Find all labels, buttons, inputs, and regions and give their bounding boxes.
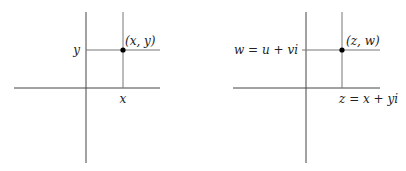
- point-marker: [339, 47, 344, 52]
- diagram-right: w = u + vi (z, w) z = x + yi: [233, 12, 398, 163]
- point-marker: [120, 47, 125, 52]
- y-label: y: [72, 43, 80, 57]
- point-label: (x, y): [125, 34, 156, 48]
- x-label: x: [120, 92, 127, 106]
- point-label: (z, w): [346, 34, 380, 48]
- w-label: w = u + vi: [234, 43, 298, 57]
- diagram-left: y (x, y) x: [14, 12, 160, 163]
- z-label: z = x + yi: [338, 92, 398, 106]
- figure: y (x, y) x w = u + vi (z, w) z = x + yi: [0, 0, 406, 171]
